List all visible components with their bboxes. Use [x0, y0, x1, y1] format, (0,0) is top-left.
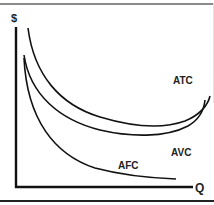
x-axis-label: Q — [195, 181, 204, 195]
atc-label: ATC — [173, 75, 193, 86]
avc-label: AVC — [171, 147, 191, 158]
cost-curves-chart: $ Q ATC AVC AFC — [0, 0, 214, 205]
y-axis-label: $ — [11, 12, 17, 24]
afc-label: AFC — [118, 160, 139, 171]
afc-curve — [24, 58, 176, 179]
